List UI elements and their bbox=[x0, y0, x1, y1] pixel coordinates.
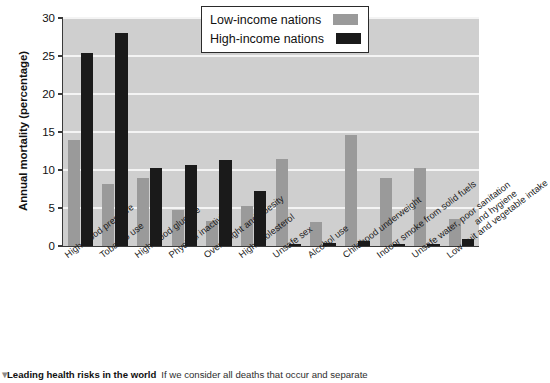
legend-item-high-income: High-income nations bbox=[210, 29, 361, 48]
y-axis-tick-label: 10 bbox=[25, 164, 55, 176]
bar-high-income bbox=[254, 191, 266, 246]
bar-group bbox=[375, 18, 410, 246]
bar-group bbox=[132, 18, 167, 246]
legend-swatch-high-income bbox=[336, 33, 361, 44]
bar-group bbox=[410, 18, 445, 246]
caption-marker-icon: ▼ bbox=[0, 369, 7, 380]
bar-high-income bbox=[289, 244, 301, 246]
y-axis-tick bbox=[58, 55, 63, 57]
bar-high-income bbox=[323, 243, 335, 246]
y-axis-tick-label: 20 bbox=[25, 88, 55, 100]
y-axis-tick-label: 0 bbox=[25, 240, 55, 252]
bar-low-income bbox=[345, 135, 357, 246]
bar-low-income bbox=[68, 140, 80, 246]
bar-high-income bbox=[185, 165, 197, 246]
y-axis-tick-label: 30 bbox=[25, 12, 55, 24]
legend-item-low-income: Low-income nations bbox=[210, 10, 361, 29]
bar-low-income bbox=[241, 206, 253, 246]
bar-low-income bbox=[414, 168, 426, 246]
y-axis-tick bbox=[58, 131, 63, 133]
bar-high-income bbox=[81, 53, 93, 246]
legend-label-low-income: Low-income nations bbox=[210, 13, 321, 27]
bar-low-income bbox=[380, 178, 392, 246]
y-axis-tick-label: 25 bbox=[25, 50, 55, 62]
caption-body: If we consider all deaths that occur and… bbox=[161, 369, 367, 380]
bar-group bbox=[444, 18, 479, 246]
legend-swatch-low-income bbox=[333, 14, 358, 25]
bar-low-income bbox=[206, 221, 218, 246]
y-axis-tick bbox=[58, 245, 63, 247]
y-axis-tick bbox=[58, 207, 63, 209]
bar-low-income bbox=[449, 219, 461, 246]
bar-low-income bbox=[310, 222, 322, 246]
bar-high-income bbox=[115, 33, 127, 246]
bar-high-income bbox=[150, 168, 162, 246]
bar-low-income bbox=[276, 159, 288, 246]
bar-high-income bbox=[427, 244, 439, 246]
bar-group bbox=[63, 18, 98, 246]
bar-high-income bbox=[393, 244, 405, 246]
caption-title: Leading health risks in the world bbox=[7, 369, 156, 380]
bar-low-income bbox=[137, 178, 149, 246]
y-axis-tick bbox=[58, 169, 63, 171]
y-axis-tick-label: 5 bbox=[25, 202, 55, 214]
y-axis-tick-label: 15 bbox=[25, 126, 55, 138]
bar-high-income bbox=[462, 239, 474, 246]
y-axis-tick bbox=[58, 17, 63, 19]
legend: Low-income nations High-income nations bbox=[201, 6, 369, 53]
bar-group bbox=[167, 18, 202, 246]
bar-high-income bbox=[219, 160, 231, 246]
legend-label-high-income: High-income nations bbox=[210, 32, 324, 46]
bar-low-income bbox=[172, 210, 184, 246]
bar-high-income bbox=[358, 241, 370, 246]
y-axis-tick bbox=[58, 93, 63, 95]
bar-group bbox=[98, 18, 133, 246]
bar-low-income bbox=[102, 184, 114, 246]
figure-caption: ▼Leading health risks in the worldIf we … bbox=[0, 369, 492, 383]
